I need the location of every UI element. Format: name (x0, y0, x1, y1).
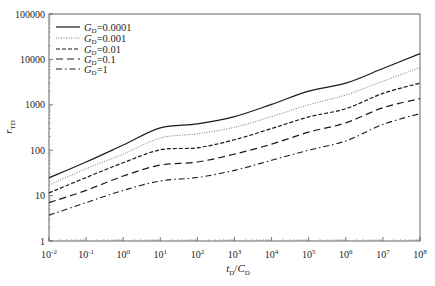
x-tick-label: 106 (339, 248, 353, 260)
legend: GD=0.0001GD=0.001GD=0.01GD=0.1GD=1 (56, 22, 131, 78)
y-tick-label: 100000 (15, 9, 45, 20)
series-line-3 (49, 99, 420, 203)
x-tick-label: 10-2 (41, 248, 57, 260)
x-tick-label: 100 (116, 248, 130, 260)
x-tick-label: 104 (265, 248, 279, 260)
data-series (49, 54, 420, 216)
log-log-chart: 110100100010000100000 10-210-11001011021… (0, 0, 435, 286)
series-line-1 (49, 68, 420, 186)
x-tick-label: 108 (413, 248, 427, 260)
y-axis: 110100100010000100000 (15, 9, 53, 247)
x-tick-label: 107 (376, 248, 390, 260)
y-tick-label: 10000 (20, 54, 45, 65)
x-tick-label: 103 (228, 248, 242, 260)
y-axis-label: rTD (2, 120, 17, 134)
series-line-4 (49, 114, 420, 216)
x-tick-label: 105 (302, 248, 316, 260)
x-tick-label: 101 (154, 248, 168, 260)
y-tick-label: 1 (40, 236, 45, 247)
x-tick-label: 10-1 (78, 248, 94, 260)
legend-label: GD=1 (84, 64, 108, 78)
y-tick-label: 1000 (25, 99, 45, 110)
y-tick-label: 10 (35, 190, 45, 201)
x-axis-label: tD/CD (226, 262, 250, 277)
x-tick-label: 102 (191, 248, 205, 260)
y-tick-label: 100 (30, 145, 45, 156)
x-axis: 10-210-1100101102103104105106107108 (41, 237, 427, 260)
series-line-2 (49, 83, 420, 193)
